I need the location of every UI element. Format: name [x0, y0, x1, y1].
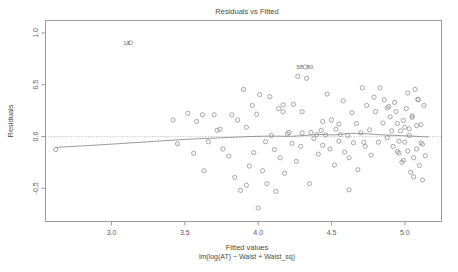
x-tick-label: 3.0	[107, 229, 117, 236]
point-label: 18	[123, 40, 130, 46]
plot-background	[0, 0, 458, 272]
chart-title: Residuals vs Fitted	[215, 7, 278, 16]
x-tick-label: 4.0	[253, 229, 263, 236]
x-axis-subtitle: lm(log(AT) ~ Waist + Waist_sq)	[199, 253, 295, 261]
residuals-vs-fitted-plot: Residuals vs Fitted 3.03.54.04.55.0 -0.5…	[0, 0, 458, 272]
x-tick-label: 5.0	[400, 229, 410, 236]
x-axis-title: Fitted values	[226, 243, 269, 252]
point-label: 80	[307, 64, 314, 70]
y-tick-label: -0.5	[32, 182, 39, 194]
x-tick-label: 4.5	[327, 229, 337, 236]
y-axis-title: Residuals	[6, 104, 15, 137]
chart-canvas: Residuals vs Fitted 3.03.54.04.55.0 -0.5…	[0, 0, 458, 272]
y-tick-label: 0.0	[32, 132, 39, 142]
point-label: 58	[296, 64, 303, 70]
x-tick-label: 3.5	[180, 229, 190, 236]
y-tick-label: 1.0	[32, 28, 39, 38]
y-tick-label: 0.5	[32, 80, 39, 90]
